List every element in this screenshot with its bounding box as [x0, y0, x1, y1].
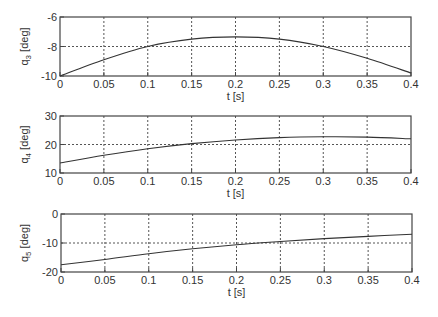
x-tick-label: 0.25	[269, 78, 290, 90]
x-tick-label: 0.4	[403, 175, 418, 187]
x-tick-label: 0.35	[357, 274, 378, 286]
x-tick-label: 0.15	[181, 78, 202, 90]
x-tick-label: 0.3	[316, 175, 331, 187]
y-tick-label: 20	[45, 139, 57, 151]
x-tick-label: 0.3	[317, 274, 332, 286]
y-tick-label: -10	[41, 70, 57, 82]
x-tick-label: 0	[58, 274, 64, 286]
x-tick-label: 0	[57, 175, 63, 187]
x-axis-label: t [s]	[227, 187, 245, 199]
y-axis-label: q5 [deg]	[18, 224, 33, 262]
x-tick-label: 0.1	[140, 78, 155, 90]
x-tick-label: 0.35	[356, 175, 377, 187]
x-tick-label: 0.15	[181, 175, 202, 187]
x-tick-label: 0.2	[228, 175, 243, 187]
x-tick-label: 0.3	[316, 78, 331, 90]
y-tick-label: -6	[47, 11, 57, 23]
y-tick-label: -8	[47, 41, 57, 53]
x-tick-label: 0.25	[270, 274, 291, 286]
subplot-3: 00.050.10.150.20.250.30.350.4-20-100t [s…	[18, 208, 420, 298]
x-tick-label: 0.4	[404, 274, 419, 286]
x-tick-label: 0.35	[356, 78, 377, 90]
x-tick-label: 0.25	[269, 175, 290, 187]
y-tick-label: -20	[42, 266, 58, 278]
subplot-1: 00.050.10.150.20.250.30.350.4-10-8-6t [s…	[18, 11, 419, 102]
x-tick-label: 0.2	[229, 274, 244, 286]
x-axis-label: t [s]	[227, 90, 245, 102]
x-axis-label: t [s]	[228, 286, 246, 298]
figure: 00.050.10.150.20.250.30.350.4-10-8-6t [s…	[0, 0, 438, 317]
x-tick-label: 0	[57, 78, 63, 90]
y-tick-label: 0	[52, 208, 58, 220]
y-tick-label: 10	[45, 167, 57, 179]
x-tick-label: 0.05	[93, 175, 114, 187]
y-tick-label: -10	[42, 237, 58, 249]
x-tick-label: 0.05	[94, 274, 115, 286]
subplot-2: 00.050.10.150.20.250.30.350.4102030t [s]…	[18, 110, 419, 199]
y-axis-label: q4 [deg]	[18, 125, 33, 163]
x-tick-label: 0.2	[228, 78, 243, 90]
y-axis-label: q3 [deg]	[18, 27, 33, 65]
x-tick-label: 0.05	[93, 78, 114, 90]
x-tick-label: 0.1	[140, 175, 155, 187]
x-tick-label: 0.15	[182, 274, 203, 286]
y-tick-label: 30	[45, 110, 57, 122]
x-tick-label: 0.1	[141, 274, 156, 286]
x-tick-label: 0.4	[403, 78, 418, 90]
